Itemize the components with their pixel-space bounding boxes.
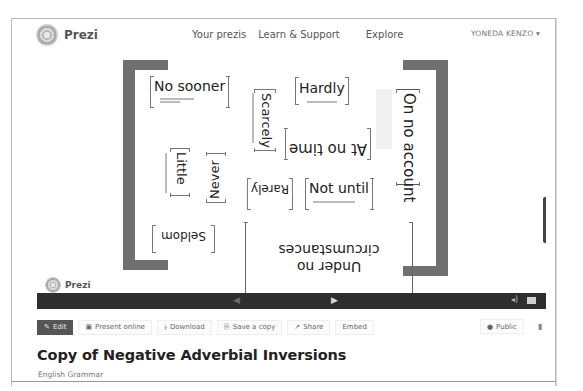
word-label: Scarcely: [259, 93, 274, 148]
fullscreen-icon[interactable]: [527, 297, 536, 304]
word-note: [313, 201, 355, 203]
download-button[interactable]: ⤓ Download: [157, 320, 212, 335]
presentation-subtitle: English Grammar: [38, 370, 103, 379]
word-note: [307, 101, 337, 103]
word-note: [160, 101, 180, 103]
present-online-label: Present online: [95, 323, 145, 331]
word-note: [252, 93, 254, 143]
word-note: [165, 153, 167, 193]
word-little: Little: [171, 148, 189, 196]
save-copy-label: Save a copy: [233, 323, 276, 331]
present-online-button[interactable]: ▣ Present online: [78, 320, 151, 335]
prev-arrow-icon[interactable]: ◀: [233, 295, 240, 305]
word-scarcely: Scarcely: [255, 89, 275, 151]
action-toolbar: ✎ Edit ▣ Present online ⤓ Download ⎘ Sav…: [37, 319, 374, 335]
nav-learn-support[interactable]: Learn & Support: [258, 29, 340, 40]
user-name: YONEDA KENZO: [471, 29, 533, 38]
top-header: Prezi Your prezis Learn & Support Explor…: [12, 19, 555, 51]
presentation-title: Copy of Negative Adverbial Inversions: [37, 347, 346, 363]
prezi-logo-icon: [36, 24, 58, 46]
main-nav: Your prezis Learn & Support Explore: [192, 29, 415, 40]
word-label: Never: [207, 160, 222, 199]
divider: [12, 381, 556, 382]
word-label: On no account: [400, 93, 418, 202]
presentation-canvas[interactable]: No sooner Scarcely Hardly On no account …: [37, 51, 546, 293]
copy-icon: ⎘: [224, 323, 230, 331]
volume-icon[interactable]: ◂): [511, 295, 518, 304]
nav-explore[interactable]: Explore: [366, 29, 404, 40]
zoom-controls: ⌂ + −: [543, 197, 546, 243]
public-button[interactable]: ● Public: [480, 319, 524, 334]
share-icon: ↗: [294, 323, 300, 331]
note-card: [376, 89, 392, 149]
trash-icon: ▮: [538, 322, 542, 331]
embed-label: Embed: [342, 323, 366, 331]
logo-text: Prezi: [64, 28, 98, 42]
word-label: Hardly: [299, 80, 345, 96]
embed-button[interactable]: Embed: [335, 320, 373, 335]
share-button[interactable]: ↗ Share: [287, 320, 330, 335]
globe-icon: ●: [487, 323, 493, 331]
chevron-down-icon: ▾: [536, 29, 540, 38]
word-label: Under no circumstances: [278, 242, 379, 275]
word-never: Never: [207, 153, 225, 203]
word-seldom: Seldom: [152, 226, 215, 252]
share-label: Share: [303, 323, 323, 331]
word-label: No sooner: [154, 78, 225, 94]
word-label: Rarely: [251, 182, 289, 196]
delete-button[interactable]: ▮: [534, 319, 546, 334]
word-at-no-time: At no time: [285, 129, 371, 159]
present-icon: ▣: [85, 323, 92, 331]
nav-your-prezis[interactable]: Your prezis: [192, 29, 246, 40]
public-label: Public: [496, 323, 517, 331]
word-under-no-circumstances: Under no circumstances: [245, 223, 413, 293]
word-label: Not until: [309, 180, 369, 196]
canvas-prezi-logo[interactable]: Prezi: [45, 277, 90, 293]
player-bar: ◀ ▶ ◂): [37, 293, 546, 309]
page-frame: Prezi Your prezis Learn & Support Explor…: [11, 18, 556, 386]
word-note: [160, 98, 194, 100]
prezi-logo-icon: [45, 277, 61, 293]
user-menu[interactable]: YONEDA KENZO ▾: [471, 29, 540, 38]
edit-label: Edit: [53, 323, 67, 331]
save-copy-button[interactable]: ⎘ Save a copy: [217, 320, 283, 335]
word-label: Seldom: [161, 229, 206, 243]
word-label: At no time: [289, 140, 367, 158]
right-tools: ● Public ▮: [480, 319, 546, 334]
word-label: Little: [174, 152, 189, 185]
word-rarely: Rarely: [247, 179, 293, 209]
download-label: Download: [170, 323, 205, 331]
prezi-logo[interactable]: Prezi: [36, 24, 98, 46]
word-not-until: Not until: [305, 179, 373, 209]
edit-button[interactable]: ✎ Edit: [37, 320, 73, 335]
word-on-no-account: On no account: [397, 89, 419, 185]
pencil-icon: ✎: [44, 323, 50, 331]
canvas-logo-text: Prezi: [65, 280, 90, 290]
download-icon: ⤓: [164, 323, 167, 331]
next-arrow-icon[interactable]: ▶: [331, 295, 338, 305]
